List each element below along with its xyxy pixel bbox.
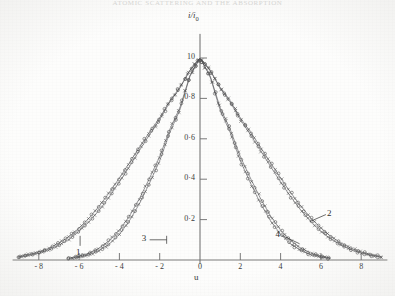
y-tick-label: 10	[169, 52, 195, 61]
x-tick-label: - 4	[105, 262, 133, 271]
x-tick-label: - 2	[146, 262, 174, 271]
y-tick-label: 0·4	[169, 173, 195, 182]
y-tick-label: 0·6	[169, 133, 195, 142]
curve-label-3: 3	[142, 233, 147, 243]
curve-3	[67, 58, 330, 259]
x-tick-label: 8	[347, 262, 375, 271]
x-tick-label: - 8	[25, 262, 53, 271]
curve-4	[67, 59, 330, 261]
y-tick-label: 0·2	[169, 214, 195, 223]
x-tick-label: 0	[186, 262, 214, 271]
axes	[13, 34, 388, 264]
x-tick-label: 6	[307, 262, 335, 271]
curve-label-1: 1	[76, 247, 81, 257]
x-tick-label: 2	[226, 262, 254, 271]
x-axis-label: u	[194, 272, 199, 282]
curve-label-2: 2	[327, 208, 332, 218]
curve-label-4: 4	[276, 229, 281, 239]
x-tick-label: - 6	[65, 262, 93, 271]
y-axis-label: i/i0	[188, 10, 199, 22]
x-tick-label: 4	[267, 262, 295, 271]
y-tick-label: 0·8	[169, 92, 195, 101]
scatter-chart	[0, 0, 395, 296]
